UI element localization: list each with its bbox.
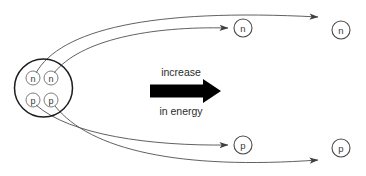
- trajectory-neutron-short: [54, 28, 228, 73]
- energy-arrow-label-top: increase: [161, 66, 201, 78]
- nucleus-proton-1: p: [26, 93, 40, 107]
- energy-arrow-label-bottom: in energy: [159, 105, 203, 117]
- diagram-canvas: n n p p n n: [0, 0, 366, 176]
- trajectory-neutron-long: [36, 15, 318, 73]
- particle-label: p: [240, 140, 245, 151]
- nucleus-proton-2: p: [44, 93, 58, 107]
- energy-arrow-group: increase in energy: [150, 66, 221, 117]
- nucleus-contents-group: n n p p: [26, 71, 58, 107]
- emitted-neutron-far: n: [332, 21, 350, 39]
- particle-label: p: [338, 143, 343, 154]
- nucleon-label: p: [48, 96, 53, 106]
- nucleus-neutron-2: n: [44, 71, 58, 85]
- particle-label: n: [240, 23, 245, 34]
- particle-label: n: [338, 25, 343, 36]
- emitted-proton-near: p: [234, 136, 252, 154]
- nucleon-label: n: [30, 74, 35, 84]
- energy-arrow-icon: [150, 79, 221, 103]
- emitted-particles-group: n n p p: [234, 19, 350, 157]
- nucleus-boundary-circle: [15, 59, 73, 117]
- nucleus-neutron-1: n: [26, 71, 40, 85]
- nucleon-emission-diagram: n n p p n n: [0, 0, 366, 176]
- emitted-neutron-near: n: [234, 19, 252, 37]
- nucleon-label: n: [48, 74, 53, 84]
- emitted-proton-far: p: [332, 139, 350, 157]
- nucleon-label: p: [30, 96, 35, 106]
